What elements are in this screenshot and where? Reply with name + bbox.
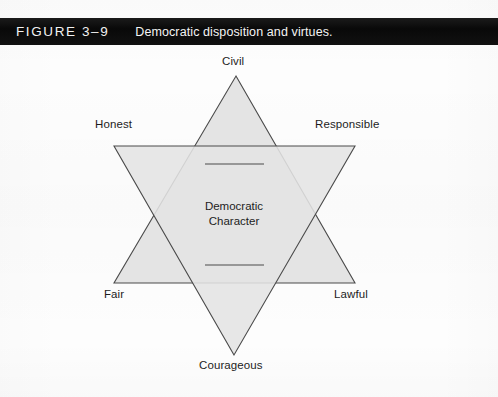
vertex-label-honest: Honest: [95, 118, 132, 130]
figure-number: FIGURE 3–9: [16, 24, 109, 39]
hexagram-diagram: Civil Responsible Lawful Courageous Fair…: [0, 45, 498, 397]
center-label-line1: Democratic: [160, 199, 308, 214]
center-label-line2: Character: [160, 214, 308, 229]
vertex-label-courageous: Courageous: [199, 359, 263, 371]
vertex-label-civil: Civil: [222, 55, 244, 67]
figure-caption-bar: FIGURE 3–9 Democratic disposition and vi…: [0, 18, 498, 45]
vertex-label-lawful: Lawful: [334, 288, 368, 300]
figure-title: Democratic disposition and virtues.: [135, 25, 332, 39]
vertex-label-fair: Fair: [104, 288, 124, 300]
center-label: Democratic Character: [160, 199, 308, 229]
vertex-label-responsible: Responsible: [315, 118, 379, 130]
